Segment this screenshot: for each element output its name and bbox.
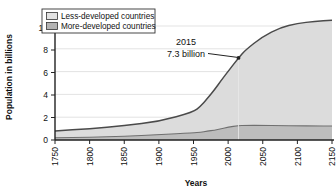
callout-point-marker	[237, 56, 241, 60]
y-tick-label: 6	[43, 68, 48, 78]
population-growth-chart: 0246810 17501800185019001950200020502100…	[0, 0, 336, 191]
chart-legend: Less-developed countries More-developed …	[42, 9, 156, 33]
legend-swatch-more-developed	[47, 23, 58, 30]
y-tick-label: 2	[43, 113, 48, 123]
y-axis-title: Population in billions	[4, 34, 14, 120]
x-tick-label: 2050	[258, 147, 268, 166]
legend-label-more-developed: More-developed countries	[61, 22, 156, 31]
chart-canvas: 0246810 17501800185019001950200020502100…	[0, 0, 336, 191]
population-2015-callout: 2015 7.3 billion	[167, 37, 240, 60]
x-tick-label: 2150	[327, 147, 336, 166]
y-tick-label: 8	[43, 45, 48, 55]
x-tick-label: 1750	[50, 147, 60, 166]
x-tick-label: 2000	[223, 147, 233, 166]
callout-leader-line	[208, 54, 238, 58]
y-axis-tick-labels: 0246810	[39, 23, 49, 146]
callout-value: 7.3 billion	[167, 49, 205, 59]
y-tick-label: 4	[43, 90, 48, 100]
x-tick-label: 1900	[154, 147, 164, 166]
x-tick-label: 2100	[293, 147, 303, 166]
callout-year: 2015	[176, 37, 196, 47]
x-axis-tick-labels: 175018001850190019502000205021002150	[50, 147, 336, 166]
x-tick-label: 1800	[85, 147, 95, 166]
x-axis-title: Years	[185, 178, 208, 188]
legend-swatch-less-developed	[47, 13, 58, 20]
y-tick-label: 0	[43, 135, 48, 145]
x-tick-label: 1850	[119, 147, 129, 166]
legend-label-less-developed: Less-developed countries	[61, 12, 154, 21]
x-tick-label: 1950	[189, 147, 199, 166]
